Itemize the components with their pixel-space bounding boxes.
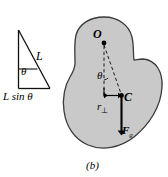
triangle-hypotenuse bbox=[19, 30, 51, 89]
pivot-point-label: O bbox=[93, 28, 102, 40]
pivot-point-marker bbox=[102, 41, 107, 46]
rigid-body-outline bbox=[63, 17, 162, 148]
triangle-base-label: L sin θ bbox=[3, 91, 33, 102]
figure-vector-graphics bbox=[0, 0, 168, 177]
moment-arm-label: r⊥ bbox=[97, 101, 108, 115]
body-angle-label: θ bbox=[97, 70, 102, 81]
moment-arm-label-sub: ⊥ bbox=[101, 106, 108, 115]
figure-caption: (b) bbox=[86, 160, 99, 171]
physics-figure-panel-b: L θ L sin θ O θ C r⊥ Fg (b) bbox=[0, 0, 168, 177]
gravity-force-label: Fg bbox=[122, 125, 133, 139]
triangle-group bbox=[19, 30, 51, 89]
triangle-hypotenuse-label: L bbox=[36, 50, 43, 62]
center-of-mass-label: C bbox=[124, 91, 132, 103]
gravity-force-label-sub: g bbox=[129, 131, 132, 138]
rigid-body-group bbox=[63, 17, 162, 148]
triangle-angle-label: θ bbox=[21, 66, 26, 77]
